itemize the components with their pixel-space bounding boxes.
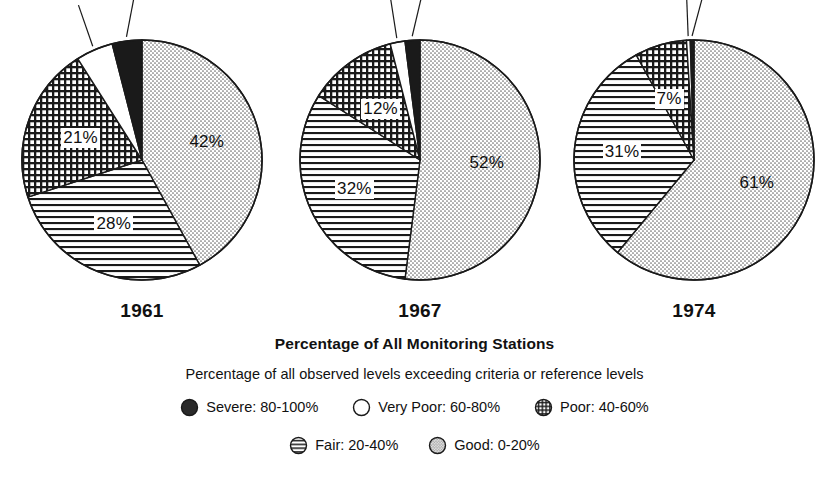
pie-chart-1967-year: 1967 [282, 300, 558, 322]
pie-slice-label-good: 42% [187, 132, 226, 152]
page-title: Percentage of All Monitoring Stations [0, 334, 829, 354]
pie-slice-label-poor: 21% [61, 128, 100, 148]
legend-label-very_poor: Very Poor: 60-80% [378, 393, 500, 421]
pie-slice-label-poor: 7% [655, 89, 684, 109]
pie-chart-1974-year: 1974 [556, 300, 829, 322]
pie-label-leader-severe [412, 0, 424, 36]
pie-label-leader-very_poor [78, 5, 92, 46]
legend-label-poor: Poor: 40-60% [560, 393, 649, 421]
legend-label-fair: Fair: 20-40% [315, 431, 398, 459]
caption-block: Percentage of All Monitoring Stations Pe… [0, 334, 829, 384]
legend-swatch-very-poor [352, 398, 371, 417]
legend-swatch-fair [289, 436, 308, 455]
pie-slice-label-fair: 32% [335, 179, 374, 199]
pie-chart-1974-graphic [556, 0, 829, 300]
legend-item-severe: Severe: 80-100% [180, 393, 318, 421]
pie-slice-label-good: 61% [737, 173, 776, 193]
pie-label-leader-severe [692, 0, 705, 36]
legend-label-good: Good: 0-20% [454, 431, 539, 459]
legend-swatch-poor [534, 398, 553, 417]
figure-subtitle: Percentage of all observed levels exceed… [0, 354, 829, 384]
legend-row-2: Fair: 20-40%Good: 0-20% [0, 421, 829, 459]
pie-chart-1961-year: 1961 [4, 300, 280, 322]
pie-slice-label-poor: 12% [361, 99, 400, 119]
legend-item-good: Good: 0-20% [428, 431, 539, 459]
pie-chart-1967: 1967 52%32%12%2%2% [282, 0, 558, 340]
pie-slice-label-fair: 28% [94, 214, 133, 234]
legend-swatch-severe [180, 398, 199, 417]
pie-chart-1961-graphic [4, 0, 280, 300]
legend-swatch-good [428, 436, 447, 455]
pie-chart-1974: 1974 61%31%7%.5%.5% [556, 0, 829, 340]
legend: Severe: 80-100%Very Poor: 60-80%Poor: 40… [0, 393, 829, 459]
pie-label-leader-severe [126, 0, 135, 37]
pie-slice-label-fair: 31% [603, 142, 642, 162]
pie-chart-1961: 1961 42%28%21%5%4% [4, 0, 280, 340]
legend-item-fair: Fair: 20-40% [289, 431, 398, 459]
pie-label-leader-very_poor [686, 0, 688, 36]
legend-item-poor: Poor: 40-60% [534, 393, 649, 421]
legend-label-severe: Severe: 80-100% [206, 393, 318, 421]
legend-row-1: Severe: 80-100%Very Poor: 60-80%Poor: 40… [0, 393, 829, 421]
pie-chart-1967-graphic [282, 0, 558, 300]
figure-canvas: 1961 42%28%21%5%4% 1967 52%32%12%2%2% 19… [0, 0, 829, 483]
pie-slice-label-good: 52% [467, 153, 506, 173]
legend-item-very_poor: Very Poor: 60-80% [352, 393, 500, 421]
pie-label-leader-very_poor [390, 0, 397, 38]
